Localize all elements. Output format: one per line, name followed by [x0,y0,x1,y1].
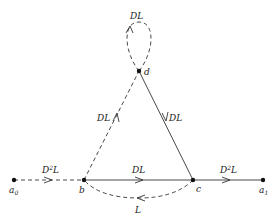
edge-d-c [139,71,193,180]
node-a1-label: a1 [259,185,268,196]
edge-b-d [84,71,139,180]
edge-c-b-label: L [134,205,141,215]
edge-a0-b [14,177,84,183]
node-c [191,178,195,182]
edge-b-c-label: DL [131,165,145,175]
node-b-label: b [79,185,85,195]
edge-d-c-label: DL [168,113,182,123]
edge-c-a1 [193,177,263,183]
node-a1 [261,178,265,182]
node-a0 [12,178,16,182]
edge-c-a1-label: D2L [219,164,237,175]
node-c-label: c [196,184,201,194]
edge-d-d-loop [126,22,151,71]
node-d [137,69,141,73]
edge-a0-b-label: D2L [41,164,59,175]
edge-d-d-label: DL [129,11,143,21]
node-d-label: d [144,67,150,77]
edge-b-c [84,177,193,183]
node-a0-label: a0 [9,185,18,196]
edge-c-b [84,180,193,201]
state-diagram: a0 b c a1 d D2L DL L D2L DL DL DL [0,0,278,219]
arrow-up-icon [126,26,133,33]
edge-b-d-label: DL [96,113,110,123]
node-b [82,178,86,182]
